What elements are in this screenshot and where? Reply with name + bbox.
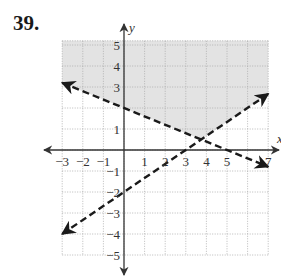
y-tick-label: −5	[106, 248, 120, 263]
x-tick-label: 7	[265, 154, 272, 169]
y-tick-label: −2	[106, 185, 120, 200]
y-tick-label: 4	[114, 59, 121, 74]
x-axis-label: x	[276, 131, 281, 146]
x-tick-label: 5	[224, 154, 231, 169]
x-tick-label: 3	[183, 154, 190, 169]
x-tick-label: 1	[141, 154, 148, 169]
inequality-graph: −3−2−11234575431−1−2−3−4−5xy	[0, 0, 281, 278]
y-tick-label: −3	[106, 206, 120, 221]
x-tick-label: 2	[162, 154, 169, 169]
x-tick-label: −2	[76, 154, 90, 169]
y-tick-label: 1	[114, 122, 121, 137]
y-tick-label: −1	[106, 164, 120, 179]
x-tick-label: −3	[55, 154, 69, 169]
x-tick-label: 4	[203, 154, 210, 169]
y-tick-label: 3	[114, 80, 121, 95]
y-axis-label: y	[127, 20, 135, 35]
y-tick-label: 5	[114, 38, 121, 53]
y-tick-label: −4	[106, 227, 120, 242]
